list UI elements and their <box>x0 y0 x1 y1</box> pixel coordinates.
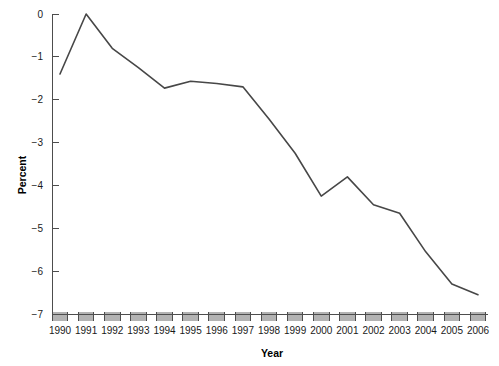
y-tick-label: −2 <box>32 94 44 105</box>
x-tick-label: 1994 <box>153 325 176 336</box>
x-axis-block <box>340 312 356 321</box>
x-axis-block <box>444 312 460 321</box>
x-axis-block <box>157 312 173 321</box>
x-tick-label: 1990 <box>49 325 72 336</box>
x-tick-label: 2006 <box>467 325 490 336</box>
chart-canvas: 0−1−2−3−4−5−6−7 199019911992199319941995… <box>0 0 499 366</box>
y-tick-label: −7 <box>32 309 44 320</box>
x-axis-block <box>287 312 303 321</box>
x-axis-block <box>313 312 329 321</box>
y-tick-label: −6 <box>32 266 44 277</box>
x-axis-block <box>470 312 486 321</box>
x-tick-label: 1998 <box>258 325 281 336</box>
x-axis-block <box>52 312 68 321</box>
x-tick-label: 2000 <box>310 325 333 336</box>
x-axis-block <box>209 312 225 321</box>
x-tick-label: 2003 <box>389 325 412 336</box>
x-tick-label: 2001 <box>336 325 359 336</box>
x-tick-label: 2004 <box>415 325 438 336</box>
y-tick-label: −3 <box>32 137 44 148</box>
x-tick-label: 1991 <box>75 325 98 336</box>
x-tick-label: 1999 <box>284 325 307 336</box>
data-series-group <box>60 14 478 295</box>
y-axis-title: Percent <box>16 155 28 194</box>
x-axis-block <box>183 312 199 321</box>
data-line-percent <box>60 14 478 295</box>
y-tick-label: 0 <box>37 9 43 20</box>
x-axis-title: Year <box>261 347 283 359</box>
x-axis: 1990199119921993199419951996199719981999… <box>49 312 490 336</box>
x-axis-block <box>392 312 408 321</box>
x-axis-block <box>235 312 251 321</box>
x-axis-block <box>78 312 94 321</box>
x-tick-label: 1996 <box>206 325 229 336</box>
y-axis: 0−1−2−3−4−5−6−7 <box>32 9 59 320</box>
x-tick-label: 2005 <box>441 325 464 336</box>
y-tick-label: −5 <box>32 223 44 234</box>
x-axis-block <box>261 312 277 321</box>
x-tick-label: 1992 <box>101 325 124 336</box>
x-tick-label: 1993 <box>127 325 150 336</box>
line-chart: 0−1−2−3−4−5−6−7 199019911992199319941995… <box>0 0 499 366</box>
y-tick-label: −1 <box>32 51 44 62</box>
y-tick-label: −4 <box>32 180 44 191</box>
x-tick-label: 1995 <box>180 325 203 336</box>
x-axis-block <box>131 312 147 321</box>
x-axis-block <box>104 312 120 321</box>
x-axis-block <box>366 312 382 321</box>
x-tick-label: 1997 <box>232 325 255 336</box>
x-axis-block <box>418 312 434 321</box>
x-tick-label: 2002 <box>362 325 385 336</box>
